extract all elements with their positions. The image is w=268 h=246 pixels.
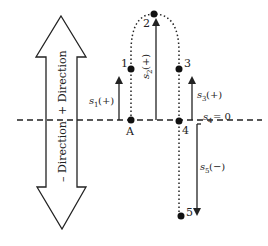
point-4-label: 4 [182, 124, 189, 137]
s3-label: s 3 (+) [197, 89, 222, 103]
s4-label: s 4 = 0 [203, 111, 231, 125]
point-2 [151, 11, 158, 18]
point-3 [176, 66, 183, 73]
point-5-label: 5 [186, 206, 193, 219]
s5-label: s 5 (−) [200, 161, 225, 175]
point-1 [128, 66, 135, 73]
s1-label: s 1 (+) [89, 95, 114, 109]
point-5 [178, 213, 185, 220]
s2-label: s 2 (+) [140, 54, 154, 79]
point-3-label: 3 [184, 57, 191, 70]
minus-direction-label: – Direction [56, 121, 69, 182]
svg-text:(+): (+) [140, 54, 151, 70]
motion-diagram: + Direction – Direction A 1 2 3 4 5 s 1 … [0, 0, 268, 246]
svg-text:(+): (+) [98, 95, 114, 106]
point-2-label: 2 [143, 17, 150, 30]
svg-text:(−): (−) [209, 161, 225, 172]
trajectory-path [131, 14, 179, 216]
point-A [128, 117, 135, 124]
point-A-label: A [125, 125, 135, 138]
plus-direction-label: + Direction [56, 50, 69, 115]
point-1-label: 1 [121, 57, 128, 70]
svg-text:(+): (+) [206, 89, 222, 100]
svg-text:= 0: = 0 [213, 111, 231, 122]
